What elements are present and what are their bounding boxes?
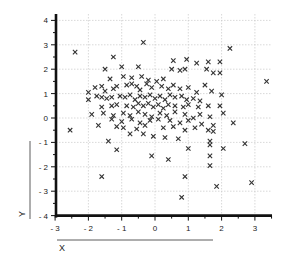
x-tick-label: 2 (219, 224, 224, 233)
data-point-x-marker (141, 132, 145, 136)
data-point-x-marker (115, 124, 119, 128)
data-point-x-marker (158, 94, 162, 98)
data-point-x-marker (115, 102, 119, 106)
data-point-x-marker (198, 99, 202, 103)
data-point-x-marker (264, 79, 268, 83)
data-point-x-marker (166, 87, 170, 91)
data-point-x-marker (184, 98, 188, 102)
data-point-x-marker (206, 104, 210, 108)
y-tick-label: 2 (44, 65, 49, 74)
data-point-x-marker (194, 90, 198, 94)
data-point-x-marker (168, 93, 172, 97)
data-point-x-marker (171, 83, 175, 87)
data-point-x-marker (198, 112, 202, 116)
data-point-x-marker (208, 154, 212, 158)
data-point-x-marker (173, 110, 177, 114)
data-point-x-marker (139, 74, 143, 78)
data-point-x-marker (206, 128, 210, 132)
data-point-x-marker (178, 121, 182, 125)
data-point-x-marker (181, 105, 185, 109)
data-point-x-marker (179, 195, 183, 199)
data-point-x-marker (163, 98, 167, 102)
y-tick-label: 1 (44, 90, 49, 99)
data-point-x-marker (158, 111, 162, 115)
data-point-x-marker (211, 123, 215, 127)
data-point-x-marker (243, 141, 247, 145)
data-point-x-marker (214, 184, 218, 188)
x-tick-label: 3 (253, 224, 258, 233)
data-point-x-marker (161, 77, 165, 81)
data-point-x-marker (103, 67, 107, 71)
data-point-x-marker (100, 174, 104, 178)
data-point-x-marker (186, 102, 190, 106)
data-point-x-marker (108, 77, 112, 81)
data-point-x-marker (196, 105, 200, 109)
data-point-x-marker (100, 84, 104, 88)
data-point-x-marker (171, 58, 175, 62)
data-point-x-marker (183, 112, 187, 116)
data-point-x-marker (93, 85, 97, 89)
data-point-x-marker (100, 95, 104, 99)
data-point-x-marker (131, 105, 135, 109)
data-point-x-marker (121, 74, 125, 78)
y-tick-label: - 2 (39, 163, 49, 172)
data-point-x-marker (138, 94, 142, 98)
data-point-x-marker (136, 65, 140, 69)
data-point-x-marker (173, 104, 177, 108)
y-tick-label: - 1 (39, 138, 49, 147)
y-tick-label: 3 (44, 41, 49, 50)
data-point-x-marker (186, 118, 190, 122)
y-axis-title: Y (17, 211, 27, 217)
data-point-x-marker (138, 88, 142, 92)
data-point-x-marker (146, 101, 150, 105)
data-point-x-marker (194, 61, 198, 65)
data-point-x-marker (166, 157, 170, 161)
x-tick-label: - 2 (84, 224, 94, 233)
data-point-x-marker (164, 113, 168, 117)
data-point-x-marker (228, 46, 232, 50)
data-point-x-marker (121, 126, 125, 130)
data-point-x-marker (151, 134, 155, 138)
data-point-x-marker (134, 127, 138, 131)
data-point-x-marker (90, 112, 94, 116)
data-point-x-marker (136, 110, 140, 114)
data-point-x-marker (166, 102, 170, 106)
data-point-x-marker (123, 95, 127, 99)
data-point-x-marker (221, 146, 225, 150)
x-tick-label: 1 (186, 224, 191, 233)
data-point-x-marker (199, 122, 203, 126)
x-tick-label: - 1 (117, 224, 127, 233)
data-point-x-marker (218, 71, 222, 75)
data-point-x-marker (178, 87, 182, 91)
y-tick-label: 4 (44, 16, 49, 25)
data-point-x-marker (124, 83, 128, 87)
data-point-x-marker (209, 89, 213, 93)
data-point-x-marker (128, 93, 132, 97)
data-point-x-marker (168, 118, 172, 122)
data-point-x-marker (143, 112, 147, 116)
scatter-chart: - 4- 3- 2- 101234- 3- 2- 10123XY (0, 0, 290, 263)
data-point-x-marker (183, 128, 187, 132)
data-point-x-marker (218, 104, 222, 108)
data-point-x-marker (173, 95, 177, 99)
data-point-x-marker (136, 101, 140, 105)
data-point-x-marker (96, 123, 100, 127)
data-point-x-marker (171, 124, 175, 128)
data-point-x-marker (153, 96, 157, 100)
y-tick-label: - 4 (39, 212, 49, 221)
data-point-x-marker (141, 104, 145, 108)
data-point-x-marker (161, 106, 165, 110)
data-point-x-marker (143, 123, 147, 127)
data-point-x-marker (105, 96, 109, 100)
data-point-x-marker (115, 148, 119, 152)
data-point-x-marker (143, 95, 147, 99)
data-point-x-marker (218, 60, 222, 64)
y-tick-label: - 3 (39, 187, 49, 196)
data-point-x-marker (110, 104, 114, 108)
data-point-x-marker (101, 111, 105, 115)
data-point-x-marker (141, 40, 145, 44)
data-point-x-marker (124, 104, 128, 108)
data-point-x-marker (211, 71, 215, 75)
data-point-x-marker (86, 90, 90, 94)
data-point-x-marker (73, 50, 77, 54)
